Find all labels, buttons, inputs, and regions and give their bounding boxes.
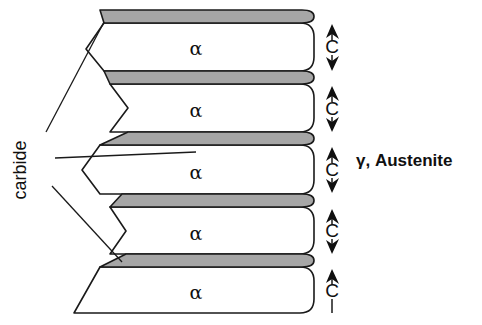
carbide-lamella-2 bbox=[104, 71, 314, 84]
ferrite-lamella-4 bbox=[110, 207, 314, 254]
alpha-label-3: α bbox=[190, 161, 203, 183]
carbon-label-3: C bbox=[325, 159, 339, 180]
carbon-arrow-2: C bbox=[325, 86, 339, 132]
carbide-lamella-4 bbox=[110, 194, 314, 207]
carbon-arrow-3: C bbox=[325, 147, 339, 193]
alpha-label-5: α bbox=[190, 281, 203, 303]
carbide-lamella-1 bbox=[100, 10, 314, 23]
alpha-label-1: α bbox=[190, 37, 203, 59]
pearlite-lamellae-diagram: α α α α α C C bbox=[0, 0, 482, 325]
carbon-label-4: C bbox=[325, 220, 339, 241]
carbon-label-2: C bbox=[325, 98, 339, 119]
alpha-label-2: α bbox=[190, 99, 203, 121]
carbon-arrow-5: C bbox=[325, 269, 339, 313]
alpha-label-4: α bbox=[190, 222, 203, 244]
carbide-lamella-5 bbox=[100, 254, 314, 267]
carbide-leader-bottom bbox=[52, 186, 122, 262]
carbon-label-1: C bbox=[325, 36, 339, 57]
ferrite-lamella-2 bbox=[110, 84, 314, 132]
carbon-arrow-4: C bbox=[325, 209, 339, 254]
diagram-canvas: α α α α α C C bbox=[0, 0, 482, 325]
carbide-lamella-3 bbox=[100, 132, 314, 145]
carbon-label-5: C bbox=[325, 280, 339, 301]
carbide-label: carbide bbox=[10, 140, 30, 199]
austenite-label: γ, Austenite bbox=[356, 151, 452, 170]
carbon-diffusion-group: C C C bbox=[325, 24, 339, 313]
carbide-leader-top bbox=[46, 22, 104, 132]
carbon-arrow-1: C bbox=[325, 24, 339, 71]
